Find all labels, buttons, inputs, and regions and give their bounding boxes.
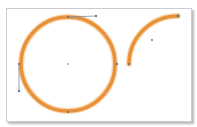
left-anchor[interactable] (18, 63, 20, 65)
right-anchor[interactable] (116, 63, 118, 65)
top-handle-endpoint[interactable] (95, 15, 97, 17)
arc-start-anchor[interactable] (128, 63, 130, 65)
circle-center-point (67, 63, 69, 65)
arc-end-anchor[interactable] (177, 15, 180, 18)
top-anchor[interactable] (67, 16, 69, 18)
bottom-anchor[interactable] (67, 111, 69, 113)
vector-artwork (0, 0, 197, 127)
arc-shape[interactable] (129, 16, 178, 64)
left-handle-endpoint[interactable] (18, 90, 20, 92)
arc-center-point (151, 39, 153, 41)
